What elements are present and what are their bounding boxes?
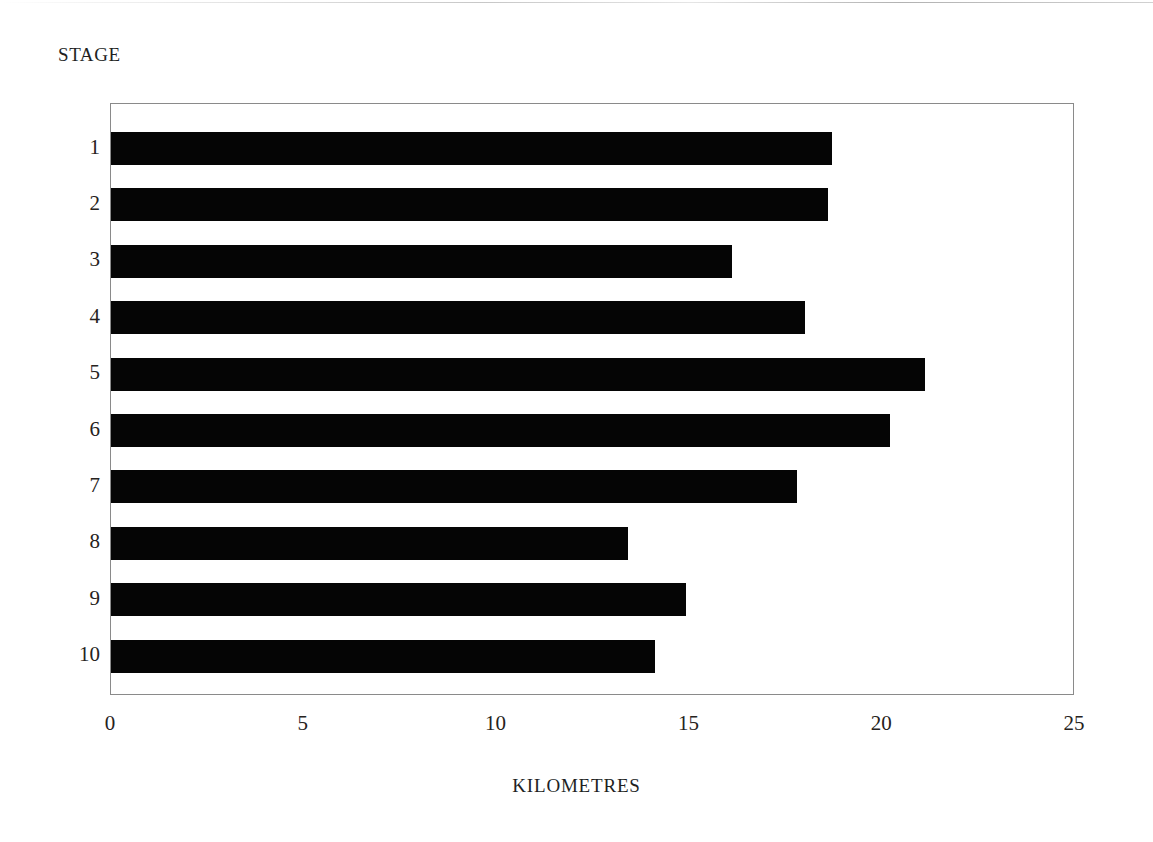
y-tick-label-7: 7 [44,475,100,496]
x-tick-label-20: 20 [841,713,921,734]
horizontal-bar-chart: STAGE 12345678910 0510152025 KILOMETRES [0,0,1153,842]
y-tick-label-9: 9 [44,588,100,609]
bar-row [111,583,1073,616]
x-tick-label-15: 15 [648,713,728,734]
y-tick-label-2: 2 [44,193,100,214]
bars-layer [111,104,1073,694]
y-axis-title: STAGE [58,44,121,66]
bar-row [111,245,1073,278]
y-tick-label-10: 10 [44,644,100,665]
bar-stage-1 [111,132,832,165]
bar-stage-7 [111,470,797,503]
bar-stage-9 [111,583,686,616]
bar-row [111,527,1073,560]
x-tick-label-0: 0 [70,713,150,734]
bar-row [111,188,1073,221]
bar-row [111,414,1073,447]
bar-stage-5 [111,358,925,391]
x-tick-label-25: 25 [1034,713,1114,734]
bar-row [111,132,1073,165]
y-tick-label-1: 1 [44,137,100,158]
bar-row [111,470,1073,503]
bar-stage-6 [111,414,890,447]
x-axis-title: KILOMETRES [0,775,1153,797]
y-tick-label-8: 8 [44,531,100,552]
x-tick-label-5: 5 [263,713,343,734]
y-tick-label-5: 5 [44,362,100,383]
y-tick-label-3: 3 [44,249,100,270]
plot-area [110,103,1074,695]
bar-row [111,640,1073,673]
y-tick-label-6: 6 [44,419,100,440]
bar-stage-4 [111,301,805,334]
bar-stage-2 [111,188,828,221]
bar-row [111,301,1073,334]
x-tick-label-10: 10 [456,713,536,734]
y-tick-label-4: 4 [44,306,100,327]
bar-stage-3 [111,245,732,278]
bar-row [111,358,1073,391]
bar-stage-10 [111,640,655,673]
bar-stage-8 [111,527,628,560]
